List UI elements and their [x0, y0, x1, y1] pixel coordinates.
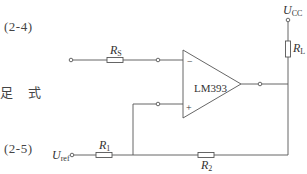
output-node [258, 82, 262, 86]
label-lm393: LM393 [194, 82, 228, 94]
input-terminal [69, 58, 73, 62]
reference-terminal [70, 153, 74, 157]
pin-noninverting: + [186, 102, 192, 113]
label-rs: RS [109, 43, 122, 58]
comparator-circuit-diagram: RS LM393 − + UCC RL Uref R1 R2 [0, 0, 307, 174]
pin-inverting: − [187, 56, 193, 67]
label-r2: R2 [200, 158, 212, 173]
inverting-input-node [156, 58, 160, 62]
supply-terminal [286, 18, 290, 22]
label-rl: RL [292, 41, 305, 56]
resistor-rl [286, 41, 291, 57]
noninverting-input-node [156, 102, 160, 106]
resistor-r1 [96, 153, 112, 158]
label-r1: R1 [98, 138, 110, 153]
resistor-rs [107, 58, 123, 63]
resistor-r2 [198, 153, 214, 158]
label-uref: Uref [52, 148, 70, 163]
label-ucc: UCC [283, 3, 302, 18]
